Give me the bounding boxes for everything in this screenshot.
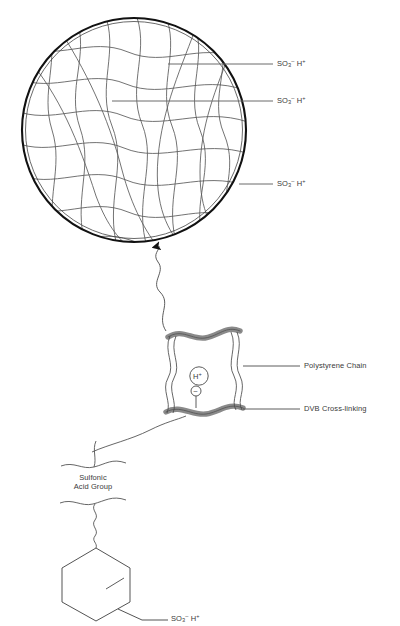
dvb-band-bottom — [166, 406, 243, 414]
label-so3h-middle: SO3– H+ — [277, 95, 306, 106]
diagram-canvas: SO3– H+ SO3– H+ SO3– H+ H+ – Polystyrene… — [0, 0, 400, 626]
label-monomer-so3h: SO3– H+ — [171, 613, 200, 624]
sulfonate-bond — [118, 609, 168, 620]
backbone-wave-lower — [60, 498, 126, 505]
label-so3h-bottom: SO3– H+ — [277, 178, 306, 189]
backbone-stub-upper — [94, 441, 96, 467]
bead-outer-ring — [22, 18, 246, 242]
magnification-connector — [156, 246, 166, 331]
sulfonic-line-1: Sulfonic — [53, 473, 133, 482]
polymer-mesh — [14, 10, 250, 252]
sulfonic-line-2: Acid Group — [53, 482, 133, 491]
label-sulfonic-acid-group: Sulfonic Acid Group — [53, 473, 133, 492]
monomer-connector — [92, 416, 186, 452]
label-proton: H+ — [193, 371, 202, 381]
mesh-leader-lines — [243, 366, 300, 409]
ring-inner-bond — [106, 578, 124, 589]
label-so3h-top: SO3– H+ — [277, 58, 306, 69]
label-polystyrene-chain: Polystyrene Chain — [304, 361, 367, 370]
label-anion-charge: – — [194, 387, 198, 394]
bead-leader-lines — [112, 64, 273, 184]
label-dvb-crosslinking: DVB Cross-linking — [304, 404, 367, 413]
mesh-cell-detail — [166, 329, 243, 414]
monomer-unit — [60, 441, 168, 621]
ring-bond-squiggle — [94, 504, 97, 548]
polystyrene-chain-left — [166, 336, 177, 413]
diagram-vector-layer — [0, 0, 400, 626]
resin-bead-magnified — [14, 10, 250, 252]
backbone-wave-upper — [61, 461, 126, 468]
polystyrene-chain-right — [231, 332, 242, 410]
